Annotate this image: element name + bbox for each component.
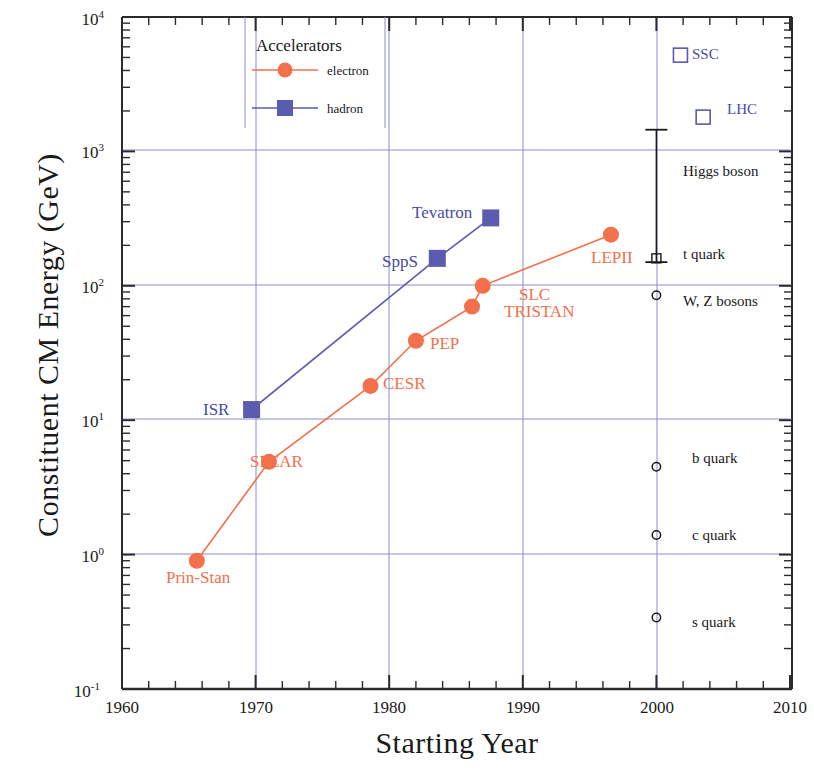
x-axis-title: Starting Year bbox=[122, 726, 792, 760]
data-point-lepii bbox=[603, 227, 619, 243]
y-tick-label-1e3: 103 bbox=[48, 141, 104, 163]
legend-title: Accelerators bbox=[256, 36, 342, 56]
marker-b-quark bbox=[652, 463, 660, 471]
data-point-isr bbox=[243, 401, 260, 418]
particle-label-wz-bosons: W, Z bosons bbox=[683, 293, 758, 310]
point-label-ssc: SSC bbox=[692, 46, 719, 63]
particle-label-higgs-boson: Higgs boson bbox=[683, 163, 758, 180]
marker-ssc bbox=[673, 48, 687, 62]
x-tick-label-1970: 1970 bbox=[226, 698, 286, 718]
x-tick-label-2010: 2010 bbox=[760, 698, 814, 718]
x-tick-label-1960: 1960 bbox=[92, 698, 152, 718]
x-tick-label-1990: 1990 bbox=[493, 698, 553, 718]
particle-markers bbox=[645, 130, 667, 622]
data-point-slc bbox=[475, 278, 491, 294]
point-label-cesr: CESR bbox=[383, 374, 426, 394]
x-tick-label-2000: 2000 bbox=[627, 698, 687, 718]
point-label-spear: SPEAR bbox=[250, 452, 303, 472]
particle-label-c-quark: c quark bbox=[692, 527, 737, 544]
point-label-tristan: TRISTAN bbox=[504, 302, 574, 322]
point-label-tevatron: Tevatron bbox=[412, 203, 472, 223]
data-point-spps bbox=[429, 250, 446, 267]
data-point-prin-stan bbox=[189, 553, 205, 569]
particle-label-s-quark: s quark bbox=[692, 614, 736, 631]
point-label-spps: SppS bbox=[382, 252, 418, 272]
chart-figure: Constituent CM Energy (GeV) Starting Yea… bbox=[0, 0, 814, 776]
y-tick-label-1e4: 104 bbox=[48, 8, 104, 30]
data-point-tevatron bbox=[482, 209, 499, 226]
marker-c-quark bbox=[652, 531, 660, 539]
point-label-pep: PEP bbox=[430, 334, 459, 354]
marker-w-z-bosons bbox=[652, 291, 660, 299]
legend-hadron-sample bbox=[252, 100, 318, 116]
series-electron bbox=[189, 227, 619, 569]
point-label-slc: SLC bbox=[519, 285, 550, 305]
data-point-cesr bbox=[362, 378, 378, 394]
point-label-isr: ISR bbox=[203, 400, 229, 420]
marker-s-quark bbox=[652, 613, 660, 621]
y-tick-label-1e-1: 10-1 bbox=[44, 680, 100, 702]
data-point-tristan bbox=[464, 299, 480, 315]
y-tick-label-1e1: 101 bbox=[48, 410, 104, 432]
particle-label-b-quark: b quark bbox=[692, 450, 737, 467]
legend-electron-sample bbox=[252, 63, 318, 78]
legend-label-electron: electron bbox=[327, 63, 369, 79]
particle-label-t-quark: t quark bbox=[683, 246, 725, 263]
point-label-prin-stan: Prin-Stan bbox=[166, 568, 230, 588]
y-tick-label-1e0: 100 bbox=[48, 545, 104, 567]
point-label-lepii: LEPII bbox=[591, 248, 633, 268]
data-point-pep bbox=[408, 333, 424, 349]
x-tick-label-1980: 1980 bbox=[359, 698, 419, 718]
point-label-lhc: LHC bbox=[727, 101, 757, 118]
legend-label-hadron: hadron bbox=[327, 101, 363, 117]
y-tick-label-1e2: 102 bbox=[48, 276, 104, 298]
marker-lhc bbox=[696, 110, 710, 124]
